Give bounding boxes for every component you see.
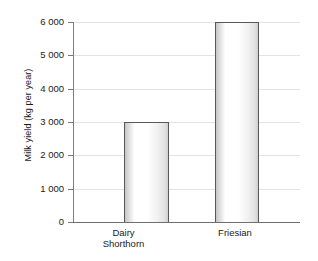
y-tick-label-5000: 5 000 <box>0 50 64 60</box>
y-tick-label-4000: 4 000 <box>0 84 64 94</box>
y-tick-mark-3000 <box>68 122 73 123</box>
gridline-3000 <box>73 122 300 123</box>
y-tick-label-0: 0 <box>0 217 64 227</box>
y-tick-mark-1000 <box>68 189 73 190</box>
y-tick-mark-0 <box>68 222 73 223</box>
gridline-2000 <box>73 155 300 156</box>
y-tick-label-2000: 2 000 <box>0 150 64 160</box>
y-tick-label-1000: 1 000 <box>0 184 64 194</box>
y-axis-line <box>73 22 74 223</box>
y-tick-label-3000: 3 000 <box>0 117 64 127</box>
y-tick-mark-2000 <box>68 155 73 156</box>
gridline-1000 <box>73 189 300 190</box>
x-category-label-dairy-shorthorn: Dairy Shorthorn <box>96 227 151 249</box>
x-axis-line <box>73 222 300 223</box>
bar-chart: Milk yield (kg per year) 6 000 5 000 4 0… <box>0 0 318 261</box>
y-tick-mark-6000 <box>68 22 73 23</box>
plot-area <box>73 22 300 222</box>
gridline-4000 <box>73 89 300 90</box>
y-tick-mark-5000 <box>68 55 73 56</box>
bar-friesian[interactable] <box>215 22 259 223</box>
gridline-5000 <box>73 55 300 56</box>
y-tick-label-6000: 6 000 <box>0 17 64 27</box>
bar-dairy-shorthorn[interactable] <box>124 122 169 223</box>
gridline-6000 <box>73 22 300 23</box>
y-tick-mark-4000 <box>68 89 73 90</box>
x-category-label-friesian: Friesian <box>200 227 270 238</box>
